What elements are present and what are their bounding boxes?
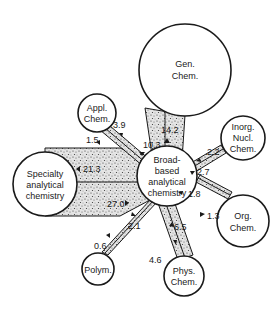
flow-value: 6.5 bbox=[174, 222, 187, 232]
node-org-chem: Org. Chem. bbox=[217, 195, 269, 247]
node-label: Gen. bbox=[175, 59, 195, 69]
flow-value: 1.3 bbox=[207, 211, 220, 221]
flow-value: 4.6 bbox=[149, 255, 162, 265]
band-org bbox=[196, 175, 232, 199]
flow-value: 1.8 bbox=[188, 189, 201, 199]
node-inorg-nucl-chem: Inorg. Nucl. Chem. bbox=[221, 116, 265, 160]
node-gen-chem: Gen. Chem. bbox=[139, 24, 231, 116]
flow-value: 21.3 bbox=[83, 164, 101, 174]
flow-value: 0.6 bbox=[94, 241, 107, 251]
flow-value: 10.3 bbox=[143, 140, 161, 150]
flow-value: 2.1 bbox=[128, 221, 141, 231]
node-specialty-analytical-chemistry: Specialty analytical chemistry bbox=[13, 152, 77, 216]
node-label: based bbox=[155, 166, 180, 176]
node-label: Broad- bbox=[153, 155, 180, 165]
node-label: Chem. bbox=[230, 223, 257, 233]
node-label: Org. bbox=[234, 211, 252, 221]
node-label: chemistry bbox=[26, 191, 65, 201]
node-label: analytical bbox=[26, 180, 64, 190]
flow-value: 14.2 bbox=[161, 125, 179, 135]
node-label: Nucl. bbox=[233, 133, 254, 143]
arrow-down-left-icon bbox=[131, 212, 136, 216]
node-label: Chem. bbox=[172, 71, 199, 81]
node-label: Chem. bbox=[84, 114, 111, 124]
flow-value: 2.2 bbox=[207, 147, 220, 157]
node-appl-chem: Appl. Chem. bbox=[78, 94, 116, 132]
arrow-right-icon bbox=[200, 212, 205, 217]
node-label: Polym. bbox=[84, 265, 112, 275]
citation-flow-diagram: Gen. Chem. Appl. Chem. Inorg. Nucl. Chem… bbox=[0, 0, 275, 310]
node-label: Phys. bbox=[173, 266, 196, 276]
node-label: Specialty bbox=[27, 169, 64, 179]
flow-value: 27.0 bbox=[107, 199, 125, 209]
node-label: Chem. bbox=[171, 277, 198, 287]
flow-value: 1.5 bbox=[86, 135, 99, 145]
node-label: Inorg. bbox=[231, 122, 254, 132]
arrow-up-right-icon bbox=[106, 233, 110, 238]
node-label: Appl. bbox=[87, 103, 108, 113]
flow-value: 3.9 bbox=[113, 120, 126, 130]
node-label: Chem. bbox=[230, 144, 257, 154]
node-label: analytical bbox=[148, 177, 186, 187]
flow-value: 2.7 bbox=[197, 167, 210, 177]
node-phys-chem: Phys. Chem. bbox=[164, 256, 204, 296]
node-polym: Polym. bbox=[82, 253, 114, 285]
